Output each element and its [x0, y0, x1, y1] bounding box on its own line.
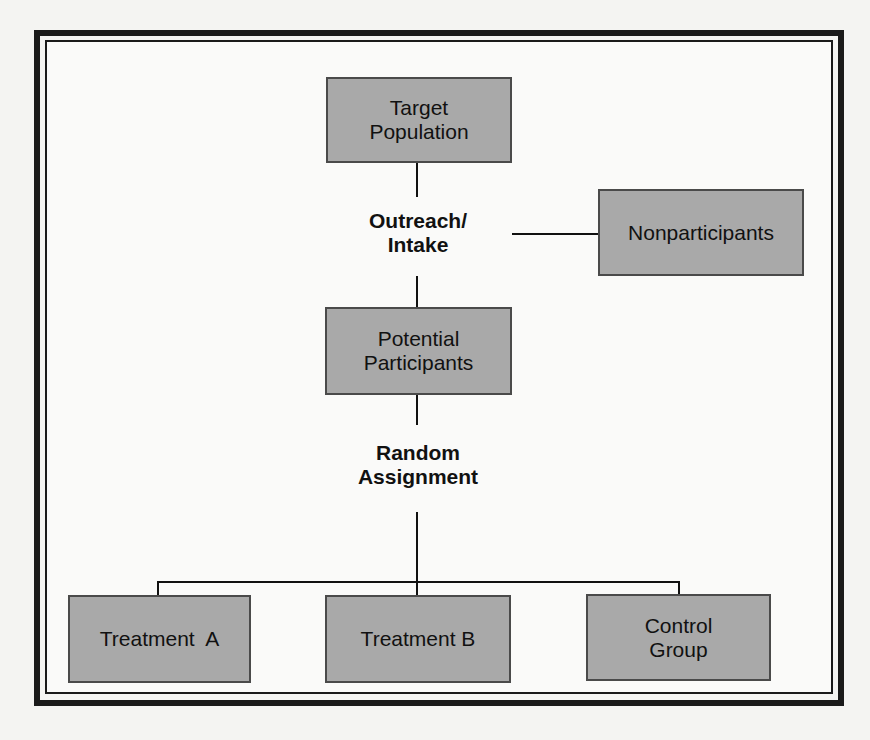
step-label-line1: Random	[320, 441, 516, 465]
node-label-line2: Group	[645, 638, 713, 662]
step-label-line2: Assignment	[320, 465, 516, 489]
step-random-assignment: Random Assignment	[320, 441, 516, 489]
node-nonparticipants: Nonparticipants	[598, 189, 804, 276]
node-treatment-b: Treatment B	[325, 595, 511, 683]
node-label-line1: Target	[369, 96, 468, 120]
node-label: Treatment A	[100, 627, 219, 651]
node-treatment-a: Treatment A	[68, 595, 251, 683]
connector-horizontal-branch	[157, 581, 680, 583]
connector-outreach-to-potential	[416, 276, 418, 308]
node-label-line1: Control	[645, 614, 713, 638]
node-label: Nonparticipants	[628, 221, 774, 245]
connector-outreach-to-nonparticipants	[512, 233, 600, 235]
node-label-line2: Participants	[364, 351, 474, 375]
step-label-line1: Outreach/	[330, 209, 506, 233]
step-outreach-intake: Outreach/ Intake	[330, 209, 506, 257]
connector-random-down	[416, 512, 418, 582]
step-label-line2: Intake	[330, 233, 506, 257]
connector-potential-to-random	[416, 393, 418, 425]
node-label-line2: Population	[369, 120, 468, 144]
node-control-group: Control Group	[586, 594, 771, 681]
node-label-line1: Potential	[364, 327, 474, 351]
node-potential-participants: Potential Participants	[325, 307, 512, 395]
node-target-population: Target Population	[326, 77, 512, 163]
connector-target-to-outreach	[416, 161, 418, 197]
node-label: Treatment B	[361, 627, 476, 651]
